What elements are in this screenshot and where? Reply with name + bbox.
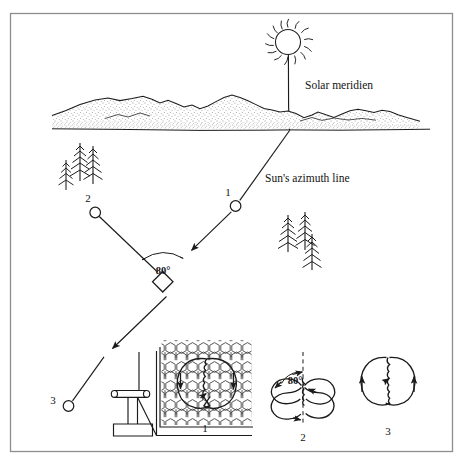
station-2-marker: [90, 207, 101, 218]
inset-1-diagram: [160, 340, 253, 427]
station-2-label: 2: [85, 192, 91, 204]
inset-3-caption: 3: [385, 425, 391, 437]
inset-1-caption: 1: [202, 422, 208, 434]
inset-2-caption: 2: [300, 431, 306, 443]
solar-meridien-label: Solar meridien: [305, 79, 373, 91]
figure-root: 1 2 3 80° Solar mer: [0, 0, 468, 465]
station-3-marker: [63, 401, 74, 412]
suns-azimuth-line-label: Sun's azimuth line: [265, 172, 349, 184]
inset-2-angle-label: 80°: [288, 375, 303, 386]
angle-label-80: 80°: [156, 265, 171, 276]
station-1-marker: [230, 201, 241, 212]
solar-azimuth-diagram: 1 2 3 80° Solar mer: [0, 0, 468, 465]
station-3-label: 3: [50, 394, 56, 406]
station-1-label: 1: [225, 186, 231, 198]
